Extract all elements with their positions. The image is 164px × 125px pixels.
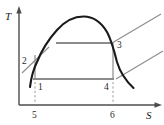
ts-diagram-figure: T S 1 2 3 4 5 6 bbox=[0, 0, 164, 125]
isobar-high-right-line bbox=[112, 14, 161, 43]
y-axis-label: T bbox=[5, 10, 12, 22]
x-tick-label-6: 6 bbox=[110, 110, 115, 120]
state-label-4: 4 bbox=[104, 82, 109, 92]
x-axis-arrowhead bbox=[155, 102, 163, 107]
x-tick-label-5: 5 bbox=[32, 110, 37, 120]
x-axis-label: S bbox=[146, 109, 152, 121]
state-label-2: 2 bbox=[22, 56, 27, 66]
state-label-1: 1 bbox=[38, 82, 43, 92]
y-axis-arrowhead bbox=[16, 6, 21, 14]
chart-canvas: T S 1 2 3 4 5 6 bbox=[0, 0, 164, 125]
dashed-drop-lines-group bbox=[35, 82, 113, 104]
state-label-3: 3 bbox=[117, 40, 122, 50]
process-lines-group bbox=[22, 14, 163, 80]
